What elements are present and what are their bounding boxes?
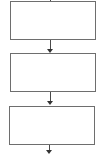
- flowchart-step-1-box: [10, 1, 96, 40]
- flowchart-step-3-box: [9, 106, 95, 145]
- flowchart-step-2-box: [10, 53, 96, 92]
- arrow-down-icon: [46, 150, 52, 154]
- arrow-down-icon: [47, 101, 53, 105]
